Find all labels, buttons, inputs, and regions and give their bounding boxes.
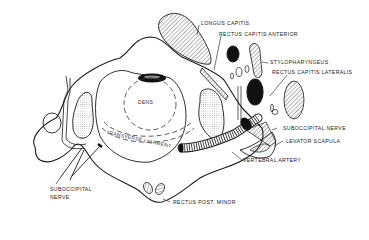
label-rectus-capitis-lateralis: RECTUS CAPITIS LATERALIS <box>272 69 352 75</box>
label-stylopharyngeus: STYLOPHARYNGEUS <box>270 59 329 65</box>
label-suboccipital-nerve-right: SUBOCCIPITAL NERVE <box>283 125 346 131</box>
internal-jugular-vein <box>247 79 263 105</box>
left-lateral-mass <box>73 92 94 138</box>
rectus-post-minor-right <box>154 182 167 196</box>
label-longus-capitis: LONGUS CAPITIS <box>201 20 249 26</box>
label-vertebral-artery: VERTEBRAL ARTERY <box>243 157 301 163</box>
right-lateral-mass <box>199 89 224 139</box>
label-dens: DENS <box>138 99 153 105</box>
stylopharyngeus-muscle <box>250 43 262 77</box>
internal-carotid-artery <box>227 46 239 62</box>
label-rectus-capitis-anterior: RECTUS CAPITIS ANTERIOR <box>219 31 298 37</box>
spinal-canal-outline <box>96 70 187 162</box>
atlas-outline <box>34 37 263 202</box>
rectus-capitis-lateralis-muscle <box>284 81 304 119</box>
label-suboccipital-nerve-left-2: NERVE <box>50 194 70 200</box>
label-suboccipital-nerve-left-1: SUBOCCIPITAL <box>50 186 92 192</box>
left-foramen-transversarium <box>43 113 61 133</box>
label-levator-scapula: LEVATOR SCAPULA <box>286 138 340 144</box>
label-rectus-post-minor: RECTUS POST. MINOR <box>173 199 236 205</box>
rectus-post-minor-left <box>142 181 155 195</box>
